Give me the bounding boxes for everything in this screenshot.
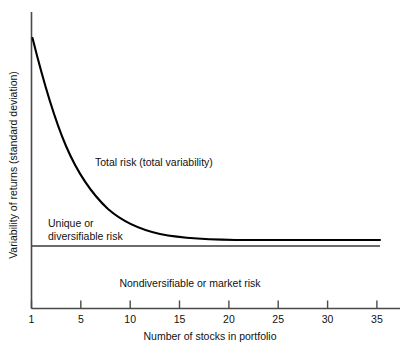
market-risk-annotation: Nondiversifiable or market risk [119,277,261,289]
x-tick-label-30: 30 [322,313,334,325]
x-axis-title: Number of stocks in portfolio [143,330,276,342]
x-tick-label-5: 5 [78,313,84,325]
x-tick-label-35: 35 [371,313,383,325]
unique-risk-annotation-line2: diversifiable risk [48,230,123,242]
x-tick-label-1: 1 [29,313,35,325]
unique-risk-annotation-line1: Unique or [48,217,94,229]
risk-diversification-chart: 1 5 10 15 20 25 30 35 Number of stocks i… [0,0,420,355]
total-risk-annotation: Total risk (total variability) [95,156,213,168]
x-tick-label-20: 20 [223,313,235,325]
chart-canvas: 1 5 10 15 20 25 30 35 Number of stocks i… [0,0,420,355]
y-axis-title: Variability of returns (standard deviati… [7,71,19,259]
chart-background [0,0,420,355]
x-tick-label-15: 15 [174,313,186,325]
x-tick-label-25: 25 [272,313,284,325]
x-tick-label-10: 10 [124,313,136,325]
